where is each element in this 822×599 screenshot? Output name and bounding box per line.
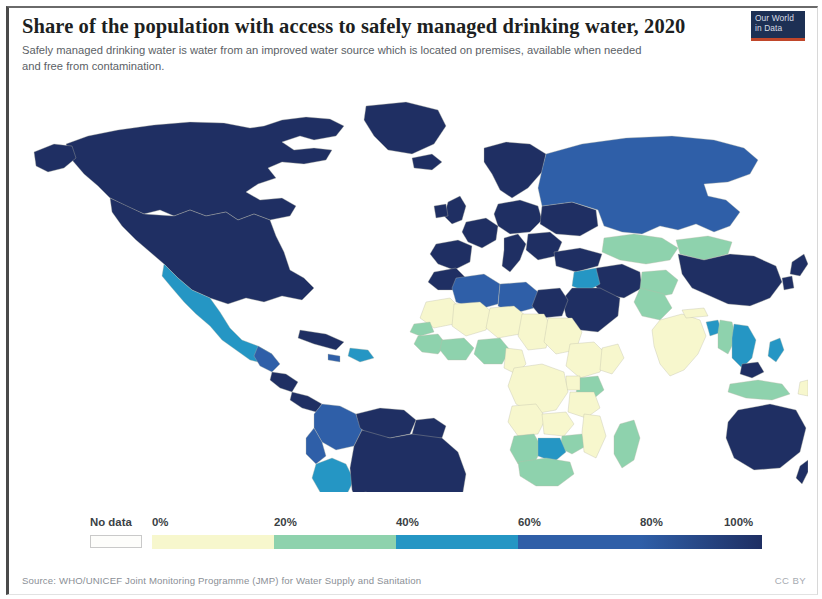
country-philippines[interactable] [768, 338, 784, 362]
country-norway-sweden-finland[interactable] [484, 142, 546, 198]
page-title: Share of the population with access to s… [22, 14, 742, 39]
legend-tick-labels: No data 0% 20% 40% 60% 80% 100% [90, 516, 762, 532]
country-papua-new-guinea[interactable] [798, 380, 808, 396]
legend-tick-40: 40% [396, 516, 419, 528]
country-jamaica[interactable] [328, 354, 340, 362]
country-nigeria[interactable] [474, 338, 510, 364]
legend-tick-20: 20% [274, 516, 297, 528]
country-italy[interactable] [502, 234, 526, 272]
country-alaska[interactable] [34, 144, 76, 172]
country-mali[interactable] [452, 302, 492, 336]
country-greenland[interactable] [364, 102, 446, 154]
chart-subtitle: Safely managed drinking water is water f… [22, 43, 642, 74]
legend-bin-0-20[interactable] [152, 535, 274, 549]
country-iceland[interactable] [412, 154, 442, 170]
country-kazakhstan[interactable] [602, 234, 678, 264]
country-uk[interactable] [444, 196, 466, 224]
country-hispaniola[interactable] [348, 348, 374, 362]
legend-gradient-ramp[interactable] [152, 535, 762, 549]
legend-bin-20-40[interactable] [274, 535, 396, 549]
license-note: CC BY [775, 575, 806, 586]
legend-tick-60: 60% [518, 516, 541, 528]
country-thailand-vietnam[interactable] [732, 324, 756, 368]
country-japan[interactable] [790, 254, 808, 276]
country-senegal-gambia[interactable] [410, 322, 434, 336]
owid-choropleth-chart: Share of the population with access to s… [0, 0, 822, 599]
country-ireland[interactable] [434, 204, 448, 218]
legend-tick-80: 80% [640, 516, 663, 528]
country-uganda[interactable] [566, 376, 580, 390]
legend-no-data-swatch[interactable] [90, 535, 142, 548]
country-germany-poland[interactable] [494, 200, 542, 234]
legend-bin-80-100[interactable] [640, 535, 762, 549]
country-costa-rica-panama[interactable] [290, 392, 322, 412]
country-india[interactable] [652, 314, 706, 376]
our-world-in-data-logo[interactable]: Our World in Data [751, 11, 805, 41]
country-cote-divoire-ghana[interactable] [440, 338, 474, 360]
country-brazil[interactable] [350, 430, 466, 492]
country-peru[interactable] [312, 458, 354, 492]
map-legend[interactable]: No data 0% 20% 40% 60% 80% 100% [90, 516, 762, 554]
chart-header: Share of the population with access to s… [22, 14, 742, 74]
legend-no-data-label: No data [90, 516, 132, 528]
country-madagascar[interactable] [614, 420, 640, 468]
country-egypt[interactable] [532, 288, 568, 318]
country-france[interactable] [462, 218, 498, 248]
legend-bin-40-60[interactable] [396, 535, 518, 549]
country-new-zealand[interactable] [796, 460, 808, 484]
country-guatemala-belize[interactable] [254, 346, 280, 372]
world-map-svg [14, 92, 808, 492]
country-ethiopia[interactable] [566, 342, 606, 378]
world-map[interactable] [14, 92, 808, 492]
country-somalia[interactable] [600, 344, 624, 374]
country-south-africa[interactable] [518, 458, 574, 486]
country-zambia[interactable] [542, 412, 574, 436]
country-canada[interactable] [66, 117, 344, 220]
legend-tick-0: 0% [152, 516, 168, 528]
country-nepal[interactable] [682, 308, 708, 318]
country-china[interactable] [678, 254, 782, 306]
country-spain-portugal[interactable] [430, 240, 472, 270]
legend-bin-60-80[interactable] [518, 535, 640, 549]
country-cuba[interactable] [298, 330, 344, 350]
country-malaysia[interactable] [740, 362, 764, 378]
country-mozambique[interactable] [582, 414, 606, 458]
country-korea[interactable] [782, 276, 794, 290]
country-australia[interactable] [726, 404, 806, 470]
source-note: Source: WHO/UNICEF Joint Monitoring Prog… [22, 575, 421, 586]
country-indonesia[interactable] [728, 380, 790, 400]
logo-line-2: in Data [755, 24, 801, 34]
country-honduras-nicaragua[interactable] [270, 372, 298, 392]
legend-color-bar[interactable] [90, 535, 762, 549]
legend-tick-100: 100% [724, 516, 753, 528]
